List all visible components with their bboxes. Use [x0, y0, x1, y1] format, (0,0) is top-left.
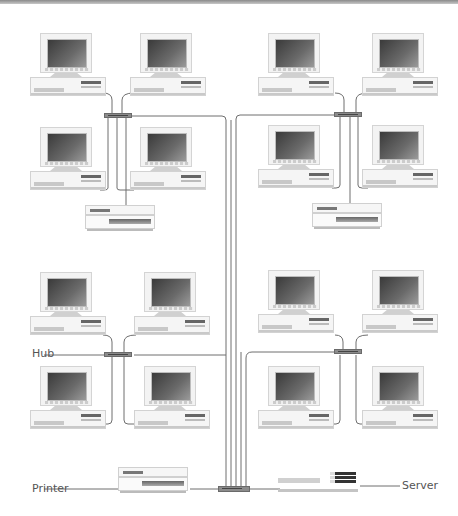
workstation: [134, 272, 210, 336]
workgroup-hub: [104, 113, 132, 118]
workstation: [362, 270, 438, 334]
workstation: [30, 366, 106, 430]
workstation: [258, 366, 334, 430]
workstation: [30, 272, 106, 336]
printer: [85, 205, 155, 231]
server: [278, 472, 358, 492]
hub-label: Hub: [32, 347, 54, 360]
workstation: [362, 33, 438, 97]
workstation: [134, 366, 210, 430]
workstation: [362, 366, 438, 430]
workstation: [130, 127, 206, 191]
central-hub: [218, 486, 250, 492]
workstation: [258, 33, 334, 97]
workgroup-hub: [334, 349, 362, 354]
workgroup-hub: [104, 352, 132, 357]
central-printer: [118, 467, 188, 493]
workstation: [362, 125, 438, 189]
workstation: [258, 270, 334, 334]
workstation: [30, 127, 106, 191]
workstation: [30, 33, 106, 97]
workstation: [258, 125, 334, 189]
workgroup-hub: [334, 112, 362, 117]
workstation: [130, 33, 206, 97]
printer-label: Printer: [32, 482, 69, 495]
server-label: Server: [402, 479, 438, 492]
printer: [312, 203, 382, 229]
